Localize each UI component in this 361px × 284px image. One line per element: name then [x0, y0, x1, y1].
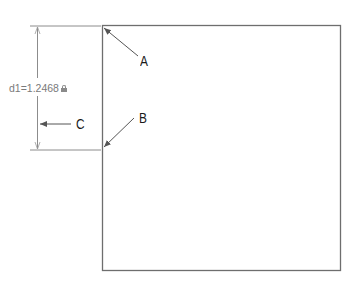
- lock-icon: [61, 85, 67, 92]
- dimension-value-text: d1=1.2468: [9, 83, 59, 94]
- callout-label-a: A: [140, 54, 148, 68]
- callout-a-arrow: [104, 28, 138, 56]
- square-shape[interactable]: [103, 26, 341, 271]
- callout-label-b: B: [139, 111, 147, 125]
- callout-label-c: C: [76, 117, 85, 131]
- dimension-label[interactable]: d1=1.2468: [9, 83, 67, 94]
- drawing-canvas: [0, 0, 361, 284]
- callout-b-arrow: [104, 118, 134, 147]
